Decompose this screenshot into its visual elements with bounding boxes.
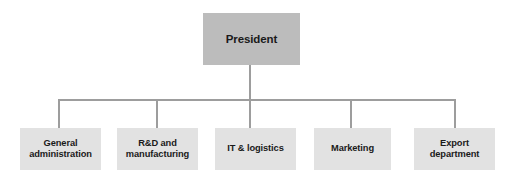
node-president[interactable]: President — [203, 13, 300, 65]
connector-drop-marketing — [350, 99, 352, 128]
connector-drop-rd-and-manufacturing — [156, 99, 158, 128]
node-marketing-label: Marketing — [328, 143, 377, 155]
org-chart: President General administration R&D and… — [0, 0, 517, 180]
connector-drop-it-and-logistics — [249, 99, 251, 128]
node-marketing[interactable]: Marketing — [314, 128, 391, 170]
node-it-and-logistics[interactable]: IT & logistics — [215, 128, 296, 170]
node-export-department-label: Export department — [427, 138, 483, 161]
node-president-label: President — [226, 33, 278, 46]
node-general-administration[interactable]: General administration — [20, 128, 101, 170]
node-export-department[interactable]: Export department — [414, 128, 495, 170]
connector-drop-export-department — [454, 99, 456, 128]
node-rd-and-manufacturing-label: R&D and manufacturing — [123, 138, 192, 161]
node-rd-and-manufacturing[interactable]: R&D and manufacturing — [117, 128, 198, 170]
connector-drop-general-administration — [58, 99, 60, 128]
connector-horizontal-bus — [58, 99, 456, 101]
node-it-and-logistics-label: IT & logistics — [224, 143, 286, 155]
node-general-administration-label: General administration — [26, 138, 95, 161]
